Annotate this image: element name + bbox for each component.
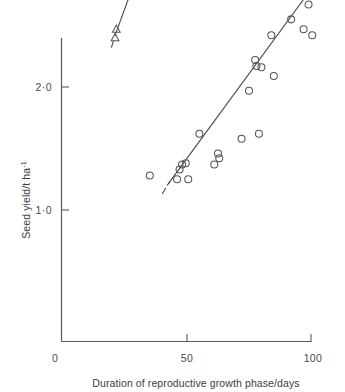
data-point-circle (258, 64, 265, 71)
data-point-circle (305, 1, 312, 8)
x-tick-label-0: 0 (52, 352, 58, 364)
data-markers-group (111, 0, 316, 183)
data-point-circle (174, 176, 181, 183)
data-point-circle (268, 32, 275, 39)
data-point-circle (146, 172, 153, 179)
triangles-regression (115, 0, 157, 35)
y-tick-label-2: 2·0 (36, 81, 52, 93)
y-axis-title-text: Seed yield/t ha (20, 168, 32, 239)
plot-canvas: 2·0 1·0 0 50 100 Duration of reproductiv… (0, 0, 345, 392)
circles-regression (167, 0, 316, 185)
data-point-circle (215, 150, 222, 157)
data-point-circle (246, 87, 253, 94)
y-axis-title: Seed yield/t ha-1 (19, 161, 32, 239)
scatter-plot-figure: 2·0 1·0 0 50 100 Duration of reproductiv… (0, 0, 345, 392)
data-point-circle (196, 130, 203, 137)
data-point-circle (185, 176, 192, 183)
circles-regression-dash-lower (162, 182, 169, 194)
data-point-circle (238, 135, 245, 142)
data-point-circle (216, 155, 223, 162)
data-point-circle (211, 161, 218, 168)
x-tick-label-100: 100 (304, 352, 323, 364)
data-point-circle (255, 130, 262, 137)
y-tick-label-1: 1·0 (36, 204, 52, 216)
y-axis-title-exponent: -1 (19, 161, 28, 168)
data-point-triangle (111, 34, 119, 41)
data-point-circle (300, 26, 307, 33)
x-tick-label-50: 50 (181, 352, 193, 364)
x-axis-title: Duration of reproductive growth phase/da… (92, 377, 299, 389)
data-point-circle (309, 32, 316, 39)
regression-lines-group (111, 0, 316, 194)
axes-group (62, 38, 312, 342)
tick-labels-group: 2·0 1·0 0 50 100 (36, 81, 323, 364)
data-point-circle (270, 72, 277, 79)
